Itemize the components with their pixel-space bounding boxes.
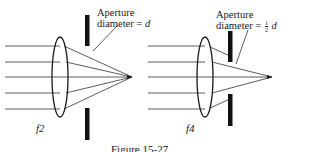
aperture-label-left: Aperture diameter = d (97, 7, 150, 29)
label-var: d (145, 18, 150, 29)
aperture-bar-right-bottom (228, 94, 233, 126)
aperture-bar-right-top (228, 31, 233, 62)
aperture-label-right-line2: diameter = 12 d (216, 20, 277, 33)
focal-point-right (267, 75, 272, 79)
label-var: d (272, 20, 277, 31)
aperture-label-right: Aperture diameter = 12 d (216, 9, 277, 33)
figure-caption: Figure 15-27 (111, 143, 168, 152)
aperture-label-right-line1: Aperture (216, 9, 277, 20)
fnumber-right: f4 (186, 122, 195, 134)
aperture-bar-left-bottom (85, 108, 90, 140)
fraction-half: 12 (265, 20, 268, 33)
label-text: diameter = (216, 20, 264, 31)
aperture-bar-left-top (85, 15, 90, 46)
fnumber-left: f2 (36, 122, 45, 134)
aperture-label-left-line1: Aperture (97, 7, 150, 18)
fraction-den: 2 (265, 27, 268, 33)
fraction-num: 1 (265, 20, 268, 27)
label-text: diameter = (97, 18, 145, 29)
aperture-label-left-line2: diameter = d (97, 18, 150, 29)
